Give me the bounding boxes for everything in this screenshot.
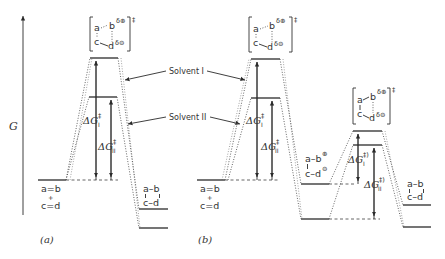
svg-text:c–d: c–d [305,168,321,179]
svg-text:b: b [269,20,275,31]
svg-text:d: d [267,41,273,52]
panel-caption: (a) [40,234,54,245]
callout-solvent-2: Solvent II [169,113,206,122]
energy-axis: G [9,16,23,215]
svg-text:δ⊖: δ⊖ [274,40,283,48]
product-label: a–b c–d [407,178,424,202]
barrier-label-1: ΔG [82,115,98,126]
svg-text:c: c [94,36,99,47]
panel-a: ΔG ‡ I ΔG ‡ II a=b + c=d a–b c–d ‡ a b δ… [38,16,168,245]
barrier-label-2: ΔG [260,141,276,152]
svg-text:‡: ‡ [132,16,136,24]
product-label: a–b c–d [143,183,160,208]
svg-text:‡: ‡ [113,138,117,146]
reactant-label: a=b + c=d [41,183,61,211]
barrier-label-2: ΔG [97,141,113,152]
svg-text:d: d [108,40,114,51]
svg-text:I: I [363,160,365,167]
panel-b: ΔG ‡ I ΔG ‡ II a=b + c=d ‡ a b δ⊕ c d δ⊖ [197,16,431,245]
svg-text:‡): ‡) [363,151,369,159]
svg-text:a: a [357,94,363,105]
svg-text:c: c [253,37,258,48]
barrier-label-4: ΔG [363,179,379,190]
svg-text:I: I [98,121,100,128]
svg-text:⊕: ⊕ [322,150,327,158]
svg-text:a–b: a–b [143,183,160,194]
svg-text:II: II [112,147,116,154]
barrier-label-1: ΔG [245,115,261,126]
panel-caption: (b) [198,234,212,245]
svg-text:c=d: c=d [200,200,219,211]
svg-text:b: b [370,91,376,102]
svg-text:a=b: a=b [41,183,61,194]
barrier-label-3: ΔG [347,154,363,165]
svg-text:‡: ‡ [276,138,280,146]
svg-text:‡: ‡ [261,112,265,120]
transition-state-structure: ‡ a b δ⊕ c d δ⊖ [249,16,298,52]
axis-label: G [9,120,18,133]
svg-text:c: c [357,108,362,119]
svg-text:‡: ‡ [98,112,102,120]
intermediate-structure: a–b ⊕ c–d ⊖ [305,150,327,179]
svg-text:δ⊖: δ⊖ [376,111,385,119]
svg-text:II: II [378,185,382,192]
svg-text:c–d: c–d [407,191,423,202]
svg-text:‡): ‡) [379,176,385,184]
svg-text:a–b: a–b [407,178,424,189]
svg-text:c=d: c=d [41,200,60,211]
svg-text:I: I [261,121,263,128]
svg-text:δ⊕: δ⊕ [276,17,285,25]
svg-text:c–d: c–d [143,197,159,208]
svg-text:‡: ‡ [294,16,298,24]
svg-text:‡: ‡ [392,86,396,94]
svg-text:a: a [94,22,100,33]
svg-text:a=b: a=b [200,183,220,194]
svg-text:δ⊖: δ⊖ [115,39,124,47]
transition-state-structure: ‡ a b δ⊕ c d δ⊖ [90,16,136,51]
svg-text:a–b: a–b [305,153,322,164]
svg-text:d: d [369,112,375,123]
reactant-label: a=b + c=d [200,183,220,211]
svg-text:δ⊕: δ⊕ [377,88,386,96]
svg-text:⊖: ⊖ [322,165,327,173]
transition-state-2-structure: ‡ a b δ⊕ c d δ⊖ [353,86,396,124]
svg-text:a: a [253,23,259,34]
svg-text:II: II [275,147,279,154]
svg-text:b: b [109,20,115,31]
svg-text:δ⊕: δ⊕ [116,17,125,25]
callout-solvent-1: Solvent I [169,67,204,76]
free-energy-diagram: G ΔG ‡ I ΔG ‡ II a=b + c=d [0,0,445,259]
solvent-callouts: Solvent I Solvent II [125,67,245,124]
